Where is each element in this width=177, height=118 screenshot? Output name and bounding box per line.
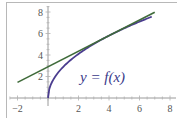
axes [10,6,176,106]
x-tick-label: 4 [107,103,112,114]
curve-f [48,17,152,98]
y-tick-label: 4 [38,50,43,61]
equation-label: y = f(x) [78,69,125,86]
y-tick-label: 8 [38,7,43,18]
x-tick-label: 2 [76,103,81,114]
y-tick-label: 6 [38,28,43,39]
y-tick-label: 2 [38,71,43,82]
chart-canvas: −224682468 y = f(x) [0,0,177,118]
x-tick-label: −2 [12,103,23,114]
x-tick-label: 8 [168,103,173,114]
tick-marks [10,7,177,101]
x-tick-label: 6 [137,103,142,114]
